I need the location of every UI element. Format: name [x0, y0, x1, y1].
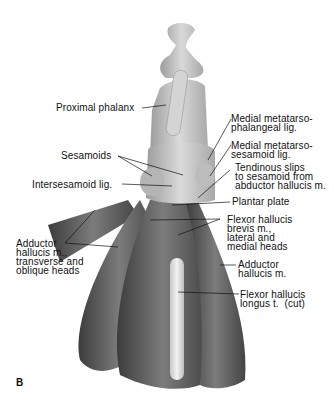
label-tendinous-slips: Tendinous slips to sesamoid from abducto… [235, 163, 326, 190]
label-sesamoids: Sesamoids [61, 151, 111, 160]
label-medial-metatarsophalangeal-lig: Medial metatarso- phalangeal lig. [231, 114, 313, 132]
label-flexor-hallucis-brevis: Flexor hallucis brevis m., lateral and m… [227, 215, 292, 251]
figure-letter: B [16, 377, 23, 388]
label-adductor-hallucis-heads: Adductor hallucis m., transverse and obl… [16, 239, 84, 275]
bones [140, 23, 215, 204]
label-adductor-hallucis: Adductor hallucis m. [238, 260, 286, 278]
label-intersesamoid-lig: Intersesamoid lig. [32, 180, 112, 189]
label-plantar-plate: Plantar plate [232, 197, 289, 206]
label-flexor-hallucis-longus: Flexor hallucis longus t. (cut) [240, 290, 305, 308]
flexor-hallucis-longus-tendon [170, 258, 184, 380]
label-medial-metatarsosesamoid-lig: Medial metatarso- sesamoid lig. [231, 141, 313, 159]
muscles [48, 195, 246, 389]
distal-phalanx [160, 23, 203, 78]
label-proximal-phalanx: Proximal phalanx [56, 103, 134, 112]
medial-sesamoid [195, 163, 215, 187]
lateral-sesamoid [140, 168, 164, 196]
